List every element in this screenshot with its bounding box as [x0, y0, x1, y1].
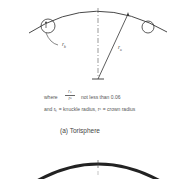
ellipsoid-arc: [35, 164, 162, 179]
crown-radius-arrow: [98, 14, 128, 79]
ratio-fraction: rₖ rᶜ: [65, 89, 75, 101]
knuckle-circle-left: [41, 19, 55, 33]
ratio-rule-text: not less than 0.06: [81, 94, 120, 100]
definition-text: and rₖ = knuckle radius, rᶜ = crown radi…: [44, 106, 135, 112]
crown-radius-label: rc: [118, 44, 122, 52]
torisphere-diagram: [0, 0, 179, 179]
where-text: where: [44, 94, 58, 100]
figure-a-caption: (a) Torisphere: [60, 127, 100, 134]
knuckle-radius-label: rk: [62, 41, 66, 49]
